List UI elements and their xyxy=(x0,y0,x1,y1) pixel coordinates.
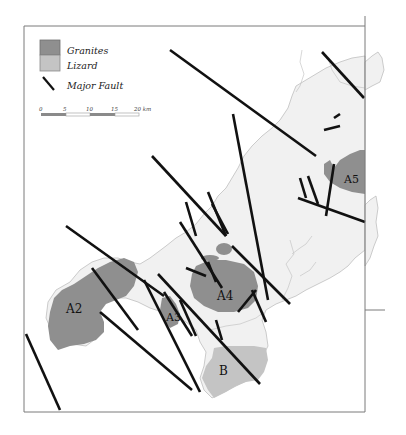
label-a5: A5 xyxy=(343,173,359,186)
scale-tick-15: 15 xyxy=(111,106,118,112)
legend-lizard-label: Lizard xyxy=(66,60,98,71)
legend: Granites Lizard Major Fault xyxy=(40,40,123,91)
granite-a4-satellite xyxy=(216,243,232,255)
legend-lizard-swatch xyxy=(40,55,60,71)
label-a4: A4 xyxy=(216,289,234,303)
legend-granites-swatch xyxy=(40,40,60,55)
legend-fault-label: Major Fault xyxy=(66,80,123,91)
label-a2: A2 xyxy=(65,302,82,316)
label-b: B xyxy=(219,364,228,378)
scale-tick-20: 20 km xyxy=(133,106,151,112)
granite-a2 xyxy=(48,258,138,350)
scale-tick-10: 10 xyxy=(86,106,93,112)
label-a3: A3 xyxy=(165,311,181,324)
scale-bar: 0 5 10 15 20 km xyxy=(39,106,151,116)
legend-fault-icon xyxy=(43,77,54,90)
scale-tick-5: 5 xyxy=(63,106,67,112)
legend-granites-label: Granites xyxy=(67,45,108,56)
scale-tick-0: 0 xyxy=(39,106,43,112)
geologic-map: A2 A3 A4 A5 B Granites Lizard Major Faul… xyxy=(0,0,406,435)
